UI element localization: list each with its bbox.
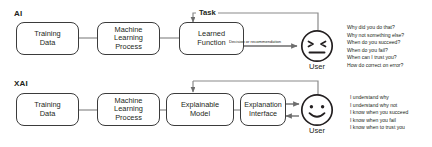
node-ai-ml-process-text: Machine Learning Process <box>114 26 143 51</box>
xai-statement-4: I know when to trust you <box>350 124 408 132</box>
ai-question-4: When can I trust you? <box>347 54 404 62</box>
xai-statement-list: I understand why I understand why not I … <box>350 94 408 132</box>
node-xai-explainable-model-text: Explainable Model <box>181 101 219 118</box>
ai-user-label: User <box>297 62 337 71</box>
node-xai-training-data-text: Training Data <box>34 101 60 118</box>
confused-face-icon <box>300 29 334 63</box>
xai-statement-2: I know when you succeed <box>350 109 408 117</box>
section-label-ai: AI <box>14 9 22 18</box>
xai-user-label: User <box>297 126 337 135</box>
xai-statement-1: I understand why not <box>350 102 408 110</box>
node-ai-learned-function-text: Learned Function <box>197 30 225 47</box>
ai-question-5: How do correct on error? <box>347 62 404 70</box>
edge-label-ai-task: Task <box>197 8 218 17</box>
node-ai-training-data-text: Training Data <box>34 30 60 47</box>
section-label-xai: XAI <box>14 79 28 88</box>
node-xai-explanation-interface-text: Explanation Interface <box>244 101 282 117</box>
smiley-face-icon <box>300 93 334 127</box>
xai-statement-0: I understand why <box>350 94 408 102</box>
ai-question-2: When do you succeed? <box>347 39 404 47</box>
diagram-canvas: AI Training Data Machine Learning Proces… <box>0 0 432 147</box>
ai-question-0: Why did you do that? <box>347 24 404 32</box>
xai-statement-3: I know when you fail <box>350 117 408 125</box>
node-xai-training-data[interactable]: Training Data <box>16 93 79 126</box>
node-xai-explanation-interface[interactable]: Explanation Interface <box>240 93 286 126</box>
node-xai-explainable-model[interactable]: Explainable Model <box>166 93 234 126</box>
node-xai-ml-process[interactable]: Machine Learning Process <box>97 93 160 126</box>
node-ai-ml-process[interactable]: Machine Learning Process <box>97 22 160 55</box>
ai-question-1: Why not something else? <box>347 32 404 40</box>
ai-question-3: When do you fail? <box>347 47 404 55</box>
node-xai-ml-process-text: Machine Learning Process <box>114 97 143 122</box>
node-ai-training-data[interactable]: Training Data <box>16 22 79 55</box>
ai-question-list: Why did you do that? Why not something e… <box>347 24 404 70</box>
edge-label-ai-decision: Decision or recommendation <box>229 39 281 44</box>
